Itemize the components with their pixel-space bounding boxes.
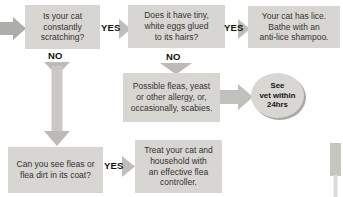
no-arrow-long-shaft xyxy=(52,66,63,132)
question-box-eggs: Does it have tiny, white eggs glued to i… xyxy=(128,5,225,48)
vet-arrow xyxy=(220,84,253,110)
no-label-scratching: NO xyxy=(48,51,63,61)
yes-label-scratching: YES xyxy=(101,23,121,33)
result-box-lice: Your cat has lice. Bathe with an anti-li… xyxy=(248,6,340,48)
no-arrow-long-head-bottom xyxy=(44,131,70,146)
page-edge-tail xyxy=(334,175,338,197)
question-box-scratching: Is your cat constantly scratching? xyxy=(25,5,100,49)
page-edge-bar xyxy=(330,143,341,176)
result-box-treat: Treat your cat and household with an eff… xyxy=(135,140,222,193)
vet-badge: See vet within 24hrs xyxy=(251,73,304,118)
yes-label-eggs: YES xyxy=(224,23,244,33)
question-box-flea-dirt: Can you see fleas or flea dirt in its co… xyxy=(8,147,103,193)
result-box-allergy: Possible fleas, yeast or other allergy, … xyxy=(123,73,220,122)
yes-arrow-flea-dirt xyxy=(122,156,135,177)
no-label-eggs: NO xyxy=(166,52,181,62)
flowchart-cat-scratching: Is your cat constantly scratching? Does … xyxy=(0,0,343,197)
yes-label-flea-dirt: YES xyxy=(104,161,124,171)
entry-arrow xyxy=(0,17,26,40)
